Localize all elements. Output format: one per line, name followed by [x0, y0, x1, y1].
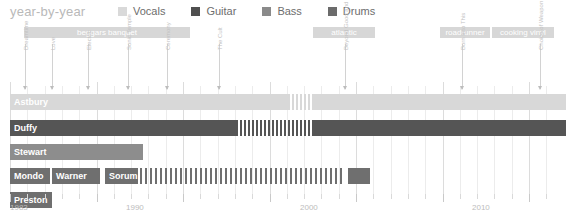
- timeline-stripes: [292, 94, 314, 110]
- row-label: Stewart: [14, 144, 47, 160]
- timeline-stripe: [308, 120, 310, 136]
- axis-tick: [148, 194, 149, 199]
- album-marker-label[interactable]: Dreamtime: [23, 21, 29, 50]
- axis-tick: [200, 194, 201, 199]
- timeline-stripe: [290, 168, 292, 184]
- timeline-stripe: [190, 168, 192, 184]
- album-marker-stem: [88, 44, 89, 89]
- timeline-stripes: [240, 120, 314, 136]
- timeline-stripe: [200, 168, 202, 184]
- timeline-stripe: [175, 168, 177, 184]
- legend-label: Bass: [277, 5, 301, 17]
- timeline-stripe: [325, 168, 327, 184]
- timeline-stripe: [295, 168, 297, 184]
- timeline-stripe: [185, 168, 187, 184]
- timeline-stripe: [240, 168, 242, 184]
- album-marker-stem: [219, 44, 220, 89]
- timeline-stripe: [230, 168, 232, 184]
- timeline-stripe: [250, 168, 252, 184]
- timeline-stripe: [255, 168, 257, 184]
- axis-tick: [391, 194, 392, 199]
- axis-tick: [443, 194, 444, 202]
- timeline-stripe: [155, 168, 157, 184]
- timeline-stripe: [245, 168, 247, 184]
- album-marker-stem: [167, 44, 168, 89]
- timeline-stripe: [140, 168, 142, 184]
- legend: VocalsGuitarBassDrums: [118, 5, 375, 17]
- timeline-row: Duffy: [0, 120, 566, 136]
- timeline-segment[interactable]: Duffy: [10, 120, 238, 136]
- timeline-row: MondoWarnerSorum: [0, 168, 566, 184]
- row-label: Warner: [56, 168, 87, 184]
- timeline-segment-tail[interactable]: [348, 168, 370, 184]
- timeline-segment-tail[interactable]: [314, 94, 566, 110]
- timeline-stripe: [292, 94, 294, 110]
- axis-tick: [97, 194, 98, 202]
- legend-item-bass[interactable]: Bass: [262, 5, 301, 17]
- timeline-stripe: [315, 168, 317, 184]
- axis-year-label: 2000: [300, 203, 318, 212]
- page-title: year-by-year: [10, 4, 85, 19]
- legend-item-guitar[interactable]: Guitar: [191, 5, 236, 17]
- axis-tick: [477, 194, 478, 199]
- album-marker-label[interactable]: Electric: [86, 30, 92, 50]
- timeline-segment[interactable]: Stewart: [10, 144, 143, 160]
- timeline-stripe: [308, 94, 310, 110]
- chart-header: year-by-year VocalsGuitarBassDrums: [0, 0, 566, 24]
- timeline-stripe: [300, 168, 302, 184]
- timeline-stripe: [320, 168, 322, 184]
- timeline-stripe: [304, 120, 306, 136]
- timeline-row: Stewart: [0, 144, 566, 160]
- timeline-stripe: [304, 94, 306, 110]
- timeline-segment[interactable]: Astbury: [10, 94, 290, 110]
- axis-tick: [79, 194, 80, 199]
- timeline-segment-tail[interactable]: [314, 120, 566, 136]
- axis-tick: [45, 194, 46, 199]
- legend-item-drums[interactable]: Drums: [328, 5, 375, 17]
- album-marker-stem: [540, 44, 541, 89]
- timeline-stripe: [235, 168, 237, 184]
- axis-tick: [131, 194, 132, 199]
- timeline-stripe: [292, 120, 294, 136]
- axis-tick: [494, 194, 495, 199]
- timeline-stripe: [264, 120, 266, 136]
- timeline-stripe: [150, 168, 152, 184]
- album-marker-stem: [128, 44, 129, 89]
- timeline-stripe: [296, 120, 298, 136]
- timeline-stripe: [260, 120, 262, 136]
- timeline-stripe: [256, 120, 258, 136]
- axis-tick: [304, 194, 305, 199]
- timeline-stripe: [305, 168, 307, 184]
- axis-year-label: 1990: [126, 203, 144, 212]
- timeline-stripe: [280, 168, 282, 184]
- timeline-segment[interactable]: Sorum: [105, 168, 138, 184]
- album-marker-label[interactable]: Love: [50, 37, 56, 50]
- axis-tick: [183, 194, 184, 202]
- axis-tick: [408, 194, 409, 199]
- label-banner[interactable]: cooking vinyl: [492, 27, 554, 38]
- axis-tick: [252, 194, 253, 199]
- timeline-row: Astbury: [0, 94, 566, 110]
- row-label: Mondo: [14, 168, 44, 184]
- album-marker-label[interactable]: Beyond Good and Evil: [343, 0, 349, 50]
- album-marker-stem: [52, 44, 53, 89]
- axis-year-label: 2010: [472, 203, 490, 212]
- album-marker-label[interactable]: Choice of Weapon: [538, 1, 544, 50]
- timeline-stripe: [252, 120, 254, 136]
- album-marker-label[interactable]: Ceremony: [165, 22, 171, 50]
- timeline-segment[interactable]: Warner: [52, 168, 100, 184]
- timeline-stripe: [300, 94, 302, 110]
- timeline-stripe: [310, 168, 312, 184]
- axis-tick: [114, 194, 115, 199]
- album-marker-label[interactable]: Born Into This: [460, 13, 466, 50]
- album-marker-label[interactable]: Sonic Temple: [126, 14, 132, 50]
- legend-swatch-icon: [262, 7, 271, 16]
- timeline-stripe: [265, 168, 267, 184]
- timeline-stripe: [165, 168, 167, 184]
- timeline-segment[interactable]: Mondo: [10, 168, 50, 184]
- timeline-stripe: [340, 168, 342, 184]
- legend-swatch-icon: [328, 7, 337, 16]
- album-marker-label[interactable]: The Cult: [217, 27, 223, 50]
- timeline-stripe: [170, 168, 172, 184]
- timeline-stripe: [300, 120, 302, 136]
